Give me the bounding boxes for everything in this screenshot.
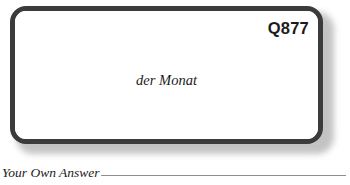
card-id-label: Q877 bbox=[268, 20, 309, 37]
answer-row: Your Own Answer bbox=[2, 166, 346, 184]
answer-label: Your Own Answer bbox=[2, 166, 100, 180]
flashcard[interactable]: Q877 der Monat bbox=[10, 6, 323, 144]
answer-write-in-line[interactable] bbox=[101, 175, 346, 176]
flashcard-page: Q877 der Monat Your Own Answer bbox=[0, 0, 350, 185]
flashcard-inner: Q877 der Monat bbox=[15, 11, 318, 139]
card-prompt-text: der Monat bbox=[15, 73, 318, 88]
